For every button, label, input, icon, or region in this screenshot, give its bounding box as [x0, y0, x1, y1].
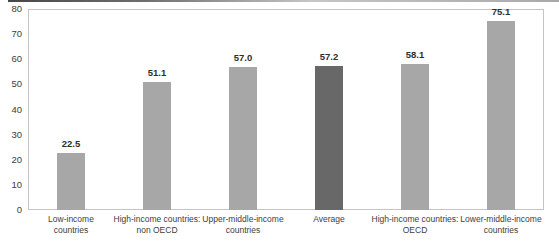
bar-high-income-countries-non-oecd [143, 82, 171, 210]
bar-average [315, 66, 343, 210]
plot-area [28, 9, 544, 210]
bar-value-label-upper-middle-income-countries: 57.0 [218, 52, 268, 64]
y-tick-label-80: 80 [0, 3, 22, 15]
bar-lower-middle-income-countries [487, 21, 515, 210]
bar-value-label-lower-middle-income-countries: 75.1 [476, 6, 526, 18]
bar-value-label-low-income-countries: 22.5 [46, 138, 96, 150]
bar-low-income-countries [57, 153, 85, 210]
bar-value-label-high-income-countries-non-oecd: 51.1 [132, 67, 182, 79]
y-tick-label-20: 20 [0, 154, 22, 166]
bar-chart: 01020304050607080 22.5Low-income countri… [0, 0, 559, 249]
y-tick-label-40: 40 [0, 104, 22, 116]
y-tick-label-30: 30 [0, 129, 22, 141]
bar-value-label-average: 57.2 [304, 51, 354, 63]
top-border-line [8, 0, 559, 2]
y-tick-label-70: 70 [0, 28, 22, 40]
y-tick-label-50: 50 [0, 78, 22, 90]
bar-value-label-high-income-countries-oecd: 58.1 [390, 49, 440, 61]
bar-upper-middle-income-countries [229, 67, 257, 210]
y-tick-label-10: 10 [0, 179, 22, 191]
y-tick-label-60: 60 [0, 53, 22, 65]
category-label-lower-middle-income-countries: Lower-middle-income countries [449, 214, 553, 236]
bar-high-income-countries-oecd [401, 64, 429, 210]
